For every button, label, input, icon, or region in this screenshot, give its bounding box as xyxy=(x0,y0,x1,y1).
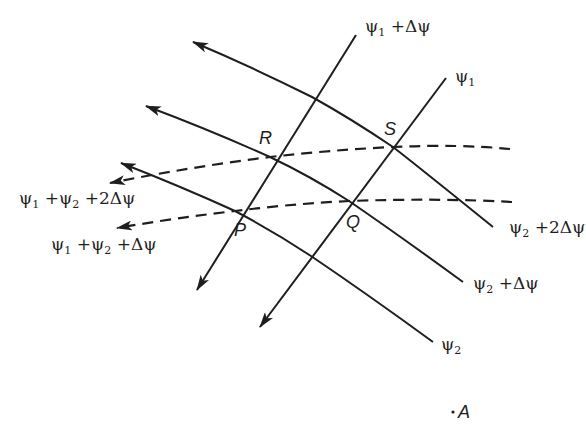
label-psi2-plus-2dpsi: ψ2 +2Δψ xyxy=(509,217,585,240)
label-psi2-plus-dpsi: ψ2 +Δψ xyxy=(473,273,539,296)
psi1-plus-dpsi-line xyxy=(197,35,356,290)
point-a-dot xyxy=(451,410,454,413)
psi2-line xyxy=(121,163,433,342)
point-label-s: S xyxy=(384,119,396,139)
point-label-r: R xyxy=(259,128,272,148)
label-sum-plus-dpsi: ψ1 +ψ2 +Δψ xyxy=(51,234,157,257)
sum-plus-dpsi-dashed-line xyxy=(117,200,512,228)
psi1-line xyxy=(260,78,446,327)
point-label-q: Q xyxy=(346,212,360,232)
psi2-plus-dpsi-line xyxy=(146,106,463,282)
label-psi2: ψ2 xyxy=(441,334,461,357)
point-label-p: P xyxy=(234,220,246,240)
point-label-a: A xyxy=(457,402,470,422)
label-psi1-plus-dpsi: ψ1 +Δψ xyxy=(365,16,431,39)
label-sum-plus-2dpsi: ψ1 +ψ2 +2Δψ xyxy=(19,188,135,211)
streamline-diagram: ψ1 +Δψ ψ1 ψ2 +2Δψ ψ2 +Δψ ψ2 ψ1 +ψ2 +2Δψ … xyxy=(0,0,586,431)
label-psi1: ψ1 xyxy=(455,66,475,89)
